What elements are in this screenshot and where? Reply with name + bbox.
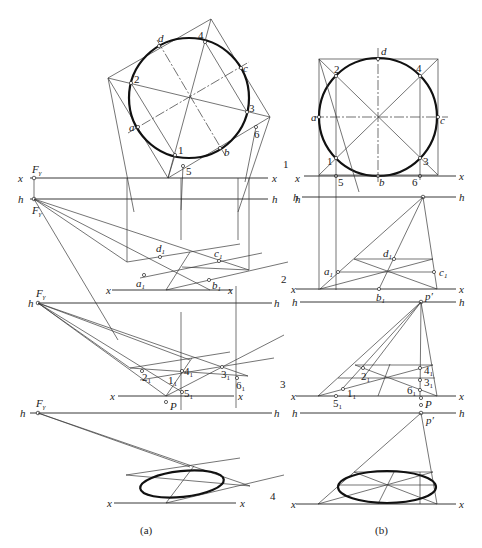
station-point-label: P (169, 400, 177, 412)
point-11-label: 11 (347, 387, 357, 401)
point-a-label: a (129, 121, 135, 133)
horizon-label: h (459, 296, 465, 308)
point-3-label: 3 (423, 155, 429, 167)
point-11-label: 11 (168, 374, 178, 388)
horizon-label: h (272, 193, 278, 205)
point-51-label: 51 (184, 387, 194, 401)
point-b-label: b (379, 176, 385, 188)
x-axis-label: x (294, 172, 300, 184)
perspective-circle-construction-figure: 1 2 3 4 5 6 a b c d x x h h Fγ (0, 0, 482, 548)
point-c-label: c (440, 114, 445, 126)
point-4-label: 4 (416, 62, 422, 74)
panel-a-step1: x x h h Fγ Fγ 1 (17, 158, 289, 270)
point-2-label: 2 (134, 73, 140, 85)
point-d1-label: d1 (156, 242, 165, 256)
point-b1-label: b1 (212, 279, 221, 293)
horizon-label: h (20, 407, 26, 419)
point-c1-label: c1 (439, 266, 447, 280)
point-21-label: 21 (361, 370, 371, 384)
horizon-label: h (292, 296, 298, 308)
point-6-label: 6 (254, 128, 260, 140)
panel-b: x h 1 2 3 4 5 (290, 45, 465, 537)
horizon-label: h (28, 297, 34, 309)
x-axis-label: x (290, 390, 296, 402)
panel-a-plan-view: 1 2 3 4 5 6 a b c d (108, 19, 270, 212)
point-1-label: 1 (327, 155, 333, 167)
point-3-label: 3 (249, 102, 255, 114)
x-axis-label: x (458, 498, 464, 510)
panel-b-step4: h h p′ x x (290, 407, 465, 510)
x-axis-label: x (239, 497, 245, 509)
point-a1-label: a1 (324, 265, 333, 279)
panel-b-step2: d1 a1 c1 b1 x x (290, 195, 464, 305)
caption-a: (a) (140, 524, 153, 537)
vanishing-point-label-4: Fγ (35, 397, 46, 411)
principal-point-label: p′ (425, 414, 435, 426)
x-axis-label: x (458, 283, 464, 295)
point-c1-label: c1 (214, 247, 222, 261)
caption-b: (b) (375, 524, 388, 537)
horizon-label: h (293, 191, 299, 203)
horizon-label: h (274, 297, 280, 309)
step-number-1: 1 (283, 158, 289, 170)
horizon-label: h (459, 191, 465, 203)
point-5-label: 5 (186, 165, 192, 177)
step-number-3: 3 (280, 378, 286, 390)
point-6-label: 6 (412, 176, 418, 188)
point-d-label: d (158, 32, 164, 44)
horizon-label: h (274, 407, 280, 419)
point-5-label: 5 (338, 176, 344, 188)
panel-a-step3: 21 11 41 31 61 51 P x x 3 (38, 303, 286, 412)
point-a1-label: a1 (136, 277, 145, 291)
step-number-2: 2 (281, 273, 287, 285)
point-31-label: 31 (221, 368, 231, 382)
point-d-label: d (381, 45, 387, 57)
point-b-label: b (224, 146, 230, 158)
station-point-label: P (424, 398, 432, 410)
point-41-label: 41 (184, 365, 194, 379)
point-1-label: 1 (178, 144, 184, 156)
point-d1-label: d1 (383, 247, 392, 261)
step-number-4: 4 (270, 490, 276, 502)
horizon-label: h (459, 407, 465, 419)
point-51-label: 51 (333, 397, 343, 411)
x-axis-label: x (237, 390, 243, 402)
point-61-label: 61 (407, 384, 417, 398)
point-2-label: 2 (334, 63, 340, 75)
x-axis-label: x (458, 170, 464, 182)
x-axis-label: x (106, 497, 112, 509)
x-axis-label: x (109, 390, 115, 402)
vanishing-point-label: Fγ (31, 163, 42, 177)
vanishing-point-label-2: Fγ (31, 204, 42, 218)
x-axis-label: x (227, 284, 233, 296)
point-4-label: 4 (198, 29, 204, 41)
horizon-label: h (292, 407, 298, 419)
point-b1-label: b1 (376, 291, 385, 305)
point-c-label: c (243, 62, 248, 74)
panel-a-step4: h h Fγ x x 4 (20, 397, 284, 509)
x-axis-label: x (105, 284, 111, 296)
point-a-label: a (311, 111, 317, 123)
vanishing-point-label-3: Fγ (35, 287, 46, 301)
panel-b-plan-view: 1 2 3 4 5 6 a b c d (311, 45, 448, 290)
x-axis-label: x (290, 498, 296, 510)
horizon-label: h (18, 193, 24, 205)
x-axis-label: x (290, 283, 296, 295)
x-axis-label: x (458, 390, 464, 402)
panel-a: 1 2 3 4 5 6 a b c d x x h h Fγ (17, 19, 289, 537)
panel-b-step3: h h p′ 21 11 41 31 (290, 290, 465, 411)
point-21-label: 21 (142, 371, 152, 385)
x-axis-label: x (17, 172, 23, 184)
x-axis-label: x (271, 172, 277, 184)
principal-point-label: p′ (424, 290, 434, 302)
